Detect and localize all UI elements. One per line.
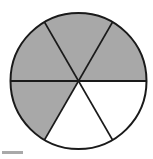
caption-rule [2,151,23,154]
figure-container [0,0,153,159]
pie-chart-svg [0,0,153,159]
